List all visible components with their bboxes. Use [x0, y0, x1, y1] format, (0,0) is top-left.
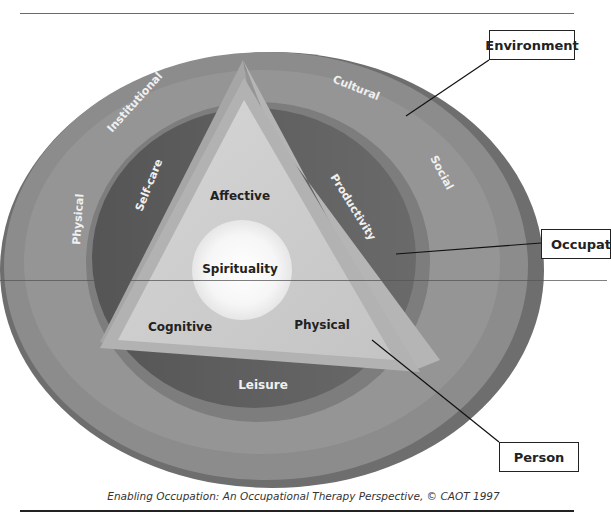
person-label-cognitive: Cognitive — [148, 320, 212, 334]
person-label-physical: Physical — [294, 318, 350, 332]
callout-occupation-label: Occupat — [551, 237, 611, 252]
core-label-spirituality: Spirituality — [202, 262, 278, 276]
figure-caption: Enabling Occupation: An Occupational The… — [0, 490, 607, 502]
callout-environment-label: Environment — [485, 38, 579, 53]
callout-person: Person — [499, 442, 579, 472]
person-label-affective: Affective — [210, 189, 270, 203]
callout-occupation: Occupat — [541, 229, 611, 259]
bottom-rule — [20, 510, 574, 512]
callout-person-label: Person — [514, 450, 565, 465]
occ-label-leisure: Leisure — [238, 378, 288, 392]
horizontal-divider — [0, 280, 607, 281]
callout-environment: Environment — [489, 30, 575, 60]
